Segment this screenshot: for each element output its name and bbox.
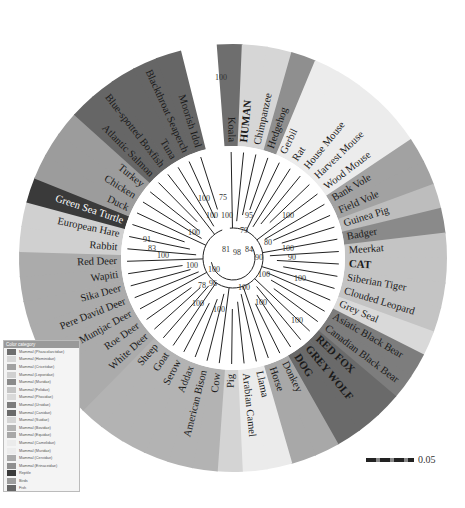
- legend-item: Birds: [4, 477, 79, 485]
- bootstrap-value: 98: [233, 248, 241, 257]
- legend-item: Mammal (Bovidae): [4, 424, 79, 432]
- branch: [232, 309, 233, 364]
- leaf-label: Meerkat: [348, 242, 384, 255]
- bootstrap-value: 100: [294, 274, 306, 283]
- legend-label: Mammal (Cricetidae): [19, 365, 54, 369]
- legend-swatch: [7, 455, 16, 461]
- legend-swatch: [7, 387, 16, 393]
- legend-label: Mammal (Leporidae): [19, 373, 54, 377]
- scale-bar: 0.05: [366, 454, 436, 465]
- bootstrap-value: 100: [186, 261, 198, 270]
- bootstrap-value: 100: [255, 298, 267, 307]
- legend-swatch: [7, 417, 16, 423]
- leaf-label: CAT: [349, 257, 373, 270]
- legend-item: Mammal (Erinaceidae): [4, 462, 79, 470]
- legend-item: Mammal (Leporidae): [4, 371, 79, 379]
- legend-label: Mammal (Erinaceidae): [19, 464, 57, 468]
- bootstrap-value: 96: [209, 279, 217, 288]
- legend-label: Reptile: [19, 471, 31, 475]
- legend-label: Mammal (Hominidae): [19, 357, 55, 361]
- bootstrap-value: 100: [213, 305, 225, 314]
- legend-swatch: [7, 356, 16, 362]
- legend-swatch: [7, 410, 16, 416]
- legend-item: Mammal (Muridae): [4, 447, 79, 455]
- legend-swatch: [7, 478, 16, 484]
- legend-label: Mammal (Ursidae): [19, 403, 50, 407]
- legend-label: Mammal (Muridae): [19, 449, 51, 453]
- bootstrap-value: 90: [255, 253, 263, 262]
- legend-swatch: [7, 394, 16, 400]
- legend-title: Color category: [4, 341, 79, 348]
- legend-item: Mammal (Phocidae): [4, 394, 79, 402]
- bootstrap-value: 100: [215, 73, 227, 82]
- legend-label: Mammal (Cervidae): [19, 456, 52, 460]
- bootstrap-value: 100: [157, 251, 169, 260]
- legend-swatch: [7, 470, 16, 476]
- bootstrap-value: 75: [219, 193, 227, 202]
- legend-item: Reptile: [4, 470, 79, 478]
- legend-item: Fish: [4, 485, 79, 493]
- bootstrap-value: 100: [282, 211, 294, 220]
- bootstrap-value: 95: [245, 211, 253, 220]
- legend-swatch: [7, 432, 16, 438]
- legend-swatch: [7, 440, 16, 446]
- legend-label: Mammal (Phascolarctidae): [19, 350, 64, 354]
- bootstrap-value: 100: [291, 316, 303, 325]
- legend-item: Mammal (Ursidae): [4, 401, 79, 409]
- bootstrap-value: 100: [282, 244, 294, 253]
- legend-label: Mammal (Felidae): [19, 388, 50, 392]
- bootstrap-value: 100: [221, 211, 233, 220]
- bootstrap-value: 100: [206, 211, 218, 220]
- bootstrap-value: 100: [258, 270, 270, 279]
- legend-item: Mammal (Equidae): [4, 432, 79, 440]
- legend-item: Mammal (Muridae): [4, 378, 79, 386]
- legend-label: Mammal (Phocidae): [19, 395, 53, 399]
- tree-area: [121, 146, 345, 370]
- legend-swatch: [7, 485, 16, 491]
- legend-item: Mammal (Hominidae): [4, 356, 79, 364]
- bootstrap-value: 100: [188, 228, 200, 237]
- legend-label: Mammal (Muridae): [19, 380, 51, 384]
- bootstrap-value: 80: [264, 238, 272, 247]
- bootstrap-value: 83: [148, 244, 156, 253]
- color-legend: Color category Mammal (Phascolarctidae)M…: [3, 340, 80, 492]
- bootstrap-value: 100: [208, 265, 220, 274]
- bootstrap-value: 79: [240, 226, 248, 235]
- legend-label: Mammal (Camelidae): [19, 441, 55, 445]
- bootstrap-value: 91: [143, 235, 151, 244]
- legend-swatch: [7, 425, 16, 431]
- legend-swatch: [7, 379, 16, 385]
- legend-item: Mammal (Camelidae): [4, 439, 79, 447]
- legend-label: Mammal (Equidae): [19, 433, 51, 437]
- bootstrap-value: 100: [198, 194, 210, 203]
- legend-swatch: [7, 448, 16, 454]
- legend-item: Mammal (Canidae): [4, 409, 79, 417]
- legend-swatch: [7, 372, 16, 378]
- legend-swatch: [7, 349, 16, 355]
- legend-label: Mammal (Bovidae): [19, 426, 51, 430]
- scale-bar-value: 0.05: [418, 454, 436, 465]
- legend-label: Mammal (Suidae): [19, 418, 49, 422]
- legend-item: Mammal (Phascolarctidae): [4, 348, 79, 356]
- leaf-label: Koala: [226, 117, 237, 143]
- legend-label: Mammal (Canidae): [19, 411, 51, 415]
- leaf-label: Pig: [225, 373, 236, 388]
- legend-item: Mammal (Cervidae): [4, 454, 79, 462]
- legend-swatch: [7, 463, 16, 469]
- bootstrap-value: 78: [198, 281, 206, 290]
- legend-swatch: [7, 364, 16, 370]
- bootstrap-value: 100: [238, 283, 250, 292]
- scale-bar-line: [366, 458, 414, 462]
- legend-item: Mammal (Felidae): [4, 386, 79, 394]
- legend-item: Mammal (Cricetidae): [4, 363, 79, 371]
- bootstrap-value: 100: [192, 299, 204, 308]
- legend-label: Birds: [19, 479, 28, 483]
- bootstrap-value: 90: [288, 253, 296, 262]
- leaf-label: Red Deer: [77, 255, 118, 267]
- bootstrap-value: 84: [245, 245, 253, 254]
- legend-label: Fish: [19, 486, 26, 490]
- legend-swatch: [7, 402, 16, 408]
- legend-item: Mammal (Suidae): [4, 416, 79, 424]
- bootstrap-value: 81: [222, 245, 230, 254]
